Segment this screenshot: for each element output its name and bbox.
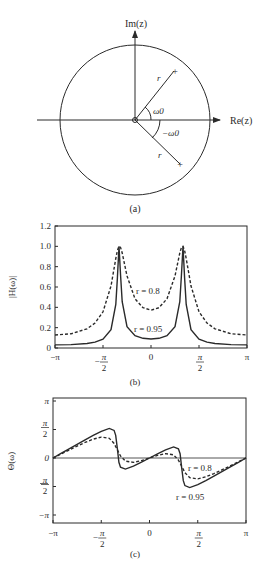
- annotation-r-0.8: r = 0.8: [188, 463, 212, 473]
- x-ticks-b: −π−π20π2π: [50, 345, 250, 373]
- caption-a: (a): [129, 203, 140, 215]
- y-axis-label-c: Θ(ω): [6, 452, 16, 470]
- svg-text:π: π: [245, 352, 250, 362]
- svg-text:π: π: [43, 475, 48, 485]
- phase-plot: −ππ20π2π −π−π20π2π r = 0.8 r = 0.95 Θ(ω)…: [6, 396, 249, 559]
- svg-text:π: π: [43, 418, 48, 428]
- svg-text:0.8: 0.8: [40, 262, 52, 272]
- svg-text:2: 2: [102, 363, 107, 373]
- svg-text:2: 2: [43, 429, 48, 439]
- svg-text:π: π: [196, 528, 201, 538]
- svg-text:2: 2: [197, 539, 202, 549]
- svg-text:0: 0: [149, 352, 154, 362]
- omega0-label: ω0: [153, 106, 164, 116]
- svg-text:π: π: [44, 396, 49, 406]
- y-axis-label-b: |H(ω)|: [7, 276, 17, 298]
- svg-text:0.6: 0.6: [40, 282, 52, 292]
- figure: Im(z) Re(z) + + r r ω0 −ω0 (a) 00.20.40.…: [0, 0, 263, 573]
- svg-text:2: 2: [43, 486, 48, 496]
- neg-omega0-label: −ω0: [162, 128, 179, 138]
- svg-text:2: 2: [100, 539, 105, 549]
- pole-upper: +: [172, 66, 178, 77]
- annotation-r-0.95: r = 0.95: [176, 492, 205, 502]
- svg-text:1.0: 1.0: [40, 241, 52, 251]
- svg-text:−π: −π: [38, 510, 49, 520]
- pole-lower: +: [177, 159, 183, 170]
- svg-text:0: 0: [147, 528, 152, 538]
- x-ticks-c: −π−π20π2π: [48, 520, 249, 549]
- svg-text:0.4: 0.4: [40, 302, 52, 312]
- angle-arc-lower: [152, 120, 160, 138]
- annotation-r-0.8: r = 0.8: [136, 286, 160, 296]
- re-axis-label: Re(z): [230, 115, 252, 127]
- plot-frame-c: [53, 398, 246, 523]
- svg-text:π: π: [102, 352, 107, 362]
- svg-text:2: 2: [198, 363, 203, 373]
- caption-b: (b): [130, 377, 141, 387]
- angle-arc-upper: [145, 107, 151, 120]
- annotation-r-0.95: r = 0.95: [134, 324, 163, 334]
- svg-text:0.2: 0.2: [40, 323, 51, 333]
- svg-text:0: 0: [45, 453, 50, 463]
- pole-zero-diagram: Im(z) Re(z) + + r r ω0 −ω0 (a): [37, 18, 252, 215]
- svg-text:π: π: [198, 352, 203, 362]
- svg-text:1.2: 1.2: [40, 221, 51, 231]
- radius-label-upper: r: [157, 73, 161, 83]
- radius-label-lower: r: [158, 150, 162, 160]
- caption-c: (c): [130, 549, 140, 559]
- svg-text:π: π: [244, 528, 249, 538]
- svg-text:−: −: [94, 356, 99, 366]
- svg-text:−π: −π: [48, 528, 58, 538]
- svg-text:π: π: [100, 528, 105, 538]
- svg-text:−: −: [93, 532, 98, 542]
- svg-text:−π: −π: [50, 352, 60, 362]
- magnitude-plot: 00.20.40.60.81.01.2 −π−π20π2π r = 0.8 r …: [7, 221, 250, 387]
- im-axis-label: Im(z): [125, 18, 147, 30]
